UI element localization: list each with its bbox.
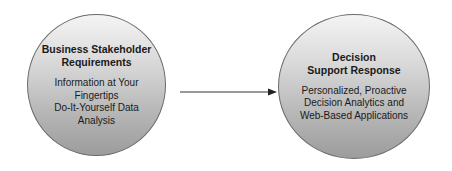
node-body-line: Web-Based Applications [300,110,408,123]
node-title: Decision Support Response [307,51,400,77]
node-body-line: Decision Analytics and [300,97,408,110]
node-title-line: Decision [307,51,400,64]
node-body-line: Personalized, Proactive [300,85,408,98]
decision-support-response-node: Decision Support Response Personalized, … [278,14,430,159]
node-body: Personalized, Proactive Decision Analyti… [300,85,408,123]
node-title-line: Support Response [307,64,400,77]
arrow-head-icon [268,89,277,96]
